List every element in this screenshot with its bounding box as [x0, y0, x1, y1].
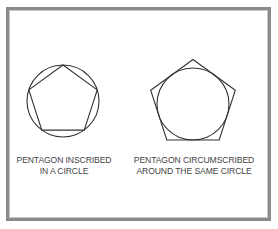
inscribed-figure [27, 65, 99, 137]
caption-circumscribed-line1: PENTAGON CIRCUMSCRIBED [133, 155, 255, 166]
pentagon-circumscribed [151, 60, 236, 141]
circle-left [27, 65, 99, 137]
caption-inscribed: PENTAGON INSCRIBED IN A CIRCLE [14, 155, 114, 177]
circle-right [157, 68, 229, 140]
caption-inscribed-line1: PENTAGON INSCRIBED [14, 155, 114, 166]
geometry-figures [0, 0, 278, 229]
caption-circumscribed: PENTAGON CIRCUMSCRIBED AROUND THE SAME C… [133, 155, 255, 177]
circumscribed-figure [151, 60, 236, 141]
caption-circumscribed-line2: AROUND THE SAME CIRCLE [133, 166, 255, 177]
caption-inscribed-line2: IN A CIRCLE [14, 166, 114, 177]
